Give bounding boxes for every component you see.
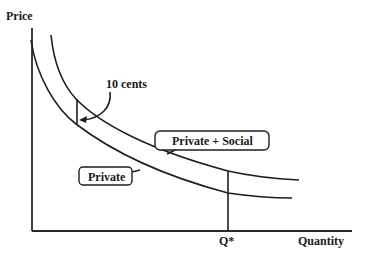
- gap-arrow: [84, 92, 110, 120]
- private-curve: [31, 40, 292, 198]
- private-label: Private: [88, 170, 126, 184]
- private-label-pointer: [132, 170, 140, 172]
- y-axis-label: Price: [6, 9, 33, 23]
- private-social-label: Private + Social: [172, 134, 253, 148]
- q-star-label: Q*: [219, 234, 234, 248]
- private-social-curve: [51, 35, 299, 180]
- x-axis-label: Quantity: [298, 234, 344, 248]
- gap-label: 10 cents: [106, 77, 147, 91]
- arrowhead-icon: [79, 116, 87, 123]
- diagram-canvas: Price Quantity Q* 10 cents Private Priva…: [0, 0, 371, 260]
